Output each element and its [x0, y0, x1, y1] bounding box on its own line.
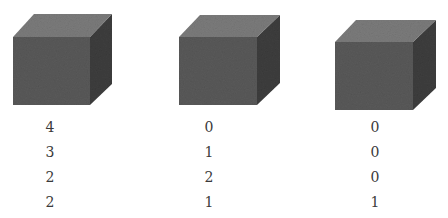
front-face	[179, 37, 257, 105]
cube-2	[179, 15, 281, 106]
value: 1	[345, 194, 405, 210]
value: 0	[345, 144, 405, 160]
value: 2	[20, 194, 80, 210]
cube-3-shape	[335, 20, 437, 111]
cube-1	[13, 14, 113, 106]
front-face	[13, 37, 90, 105]
cube-2-shape	[179, 15, 281, 106]
value: 0	[345, 169, 405, 185]
value: 0	[179, 119, 239, 135]
value: 3	[20, 144, 80, 160]
value: 1	[179, 144, 239, 160]
value: 1	[179, 194, 239, 210]
cube-1-shape	[13, 14, 113, 106]
front-face	[335, 42, 413, 110]
value: 4	[20, 119, 80, 135]
cube-3	[335, 20, 437, 111]
value: 0	[345, 119, 405, 135]
value: 2	[179, 169, 239, 185]
value: 2	[20, 169, 80, 185]
